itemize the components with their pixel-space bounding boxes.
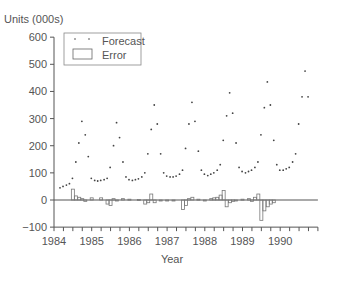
x-tick-label: 1984 [42, 235, 66, 247]
x-tick-label: 1989 [230, 235, 254, 247]
y-tick-label: 500 [29, 58, 47, 70]
legend-forecast-label: Forecast [102, 35, 145, 47]
x-axis: 1984198519861987198819891990 [42, 200, 318, 247]
forecast-legend-icon [74, 38, 76, 40]
y-tick-label: 600 [29, 31, 47, 43]
y-axis: 6005004003002001000−100 [22, 31, 54, 233]
forecast-dots [59, 70, 309, 189]
chart: Units (000s) 6005004003002001000−100 198… [0, 0, 337, 283]
x-axis-label: Year [161, 253, 184, 265]
x-tick-label: 1985 [79, 235, 103, 247]
y-tick-label: −100 [22, 221, 47, 233]
error-bars [71, 189, 275, 220]
y-tick-label: 400 [29, 85, 47, 97]
legend-error-label: Error [102, 49, 127, 61]
legend: Forecast Error [64, 33, 145, 65]
forecast-legend-icon-dot2 [88, 38, 90, 40]
x-tick-label: 1987 [155, 235, 179, 247]
y-axis-label: Units (000s) [4, 13, 63, 25]
x-tick-label: 1986 [117, 235, 141, 247]
y-tick-label: 300 [29, 113, 47, 125]
x-tick-label: 1990 [268, 235, 292, 247]
y-tick-label: 100 [29, 167, 47, 179]
y-tick-label: 200 [29, 140, 47, 152]
y-tick-label: 0 [41, 194, 47, 206]
x-tick-label: 1988 [193, 235, 217, 247]
